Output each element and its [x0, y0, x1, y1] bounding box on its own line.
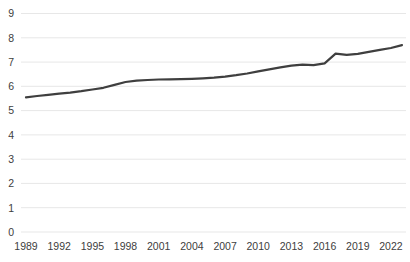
y-tick-label: 2 [8, 177, 14, 189]
x-tick-label: 1992 [48, 240, 72, 252]
y-tick-label: 9 [8, 7, 14, 19]
y-tick-label: 5 [8, 104, 14, 116]
x-tick-label: 2001 [147, 240, 171, 252]
x-tick-label: 1995 [81, 240, 105, 252]
y-tick-label: 3 [8, 153, 14, 165]
y-tick-label: 6 [8, 80, 14, 92]
line-chart: 0123456789198919921995199820012004200720… [0, 0, 410, 262]
x-tick-label: 2010 [247, 240, 271, 252]
x-tick-label: 2013 [280, 240, 304, 252]
chart-canvas: 0123456789198919921995199820012004200720… [0, 0, 410, 262]
trend-line [26, 45, 402, 97]
x-tick-label: 2004 [180, 240, 204, 252]
x-tick-label: 2022 [379, 240, 403, 252]
y-tick-label: 7 [8, 56, 14, 68]
x-tick-label: 2007 [213, 240, 237, 252]
y-tick-label: 4 [8, 129, 14, 141]
x-tick-label: 1989 [14, 240, 38, 252]
x-tick-label: 2016 [313, 240, 337, 252]
x-tick-label: 1998 [114, 240, 138, 252]
x-tick-label: 2019 [346, 240, 370, 252]
y-tick-label: 1 [8, 202, 14, 214]
y-tick-label: 8 [8, 32, 14, 44]
y-tick-label: 0 [8, 226, 14, 238]
